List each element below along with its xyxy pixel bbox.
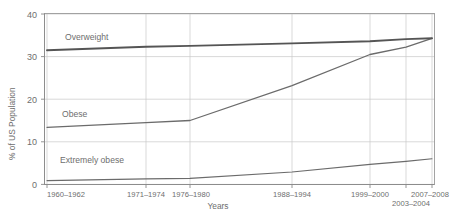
series-label-obese: Obese: [62, 109, 88, 119]
line-chart: 40 30 20 10 0 % of US Population 1960–19…: [0, 0, 459, 214]
x-tick-label-1971-1974: 1971–1974: [127, 190, 165, 199]
series-label-overweight: Overweight: [65, 32, 109, 42]
y-tick-label-30: 30: [27, 52, 37, 62]
y-tick-label-10: 10: [27, 137, 37, 147]
y-axis-title: % of US Population: [7, 87, 17, 160]
x-axis-title: Years: [207, 201, 228, 211]
y-tick-marks: [41, 14, 45, 184]
x-tick-label-1976-1980: 1976–1980: [172, 190, 210, 199]
x-tick-label-2007-2008: 2007–2008: [411, 190, 449, 199]
y-tick-label-20: 20: [27, 95, 37, 105]
series-label-extremely-obese: Extremely obese: [60, 155, 124, 165]
x-tick-label-1988-1994: 1988–1994: [273, 190, 311, 199]
x-tick-label-1999-2000: 1999–2000: [351, 190, 389, 199]
chart-container: 40 30 20 10 0 % of US Population 1960–19…: [0, 0, 459, 214]
x-tick-marks: [47, 185, 432, 189]
y-tick-label-0: 0: [32, 180, 37, 190]
x-tick-label-1960-1962: 1960–1962: [47, 190, 85, 199]
y-tick-label-40: 40: [27, 10, 37, 20]
x-tick-label-2003-2004: 2003–2004: [392, 199, 430, 208]
